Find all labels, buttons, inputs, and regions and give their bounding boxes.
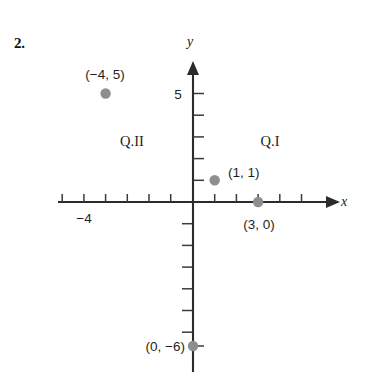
- worksheet-figure: 2. x −4: [0, 0, 377, 378]
- y-tick-label-5: 5: [174, 87, 182, 102]
- y-axis-arrow-icon: [187, 61, 199, 75]
- point-label-0-minus6: (0, −6): [146, 339, 185, 354]
- y-axis-label: y: [185, 34, 194, 49]
- data-point-minus4-5: [100, 88, 110, 98]
- data-point-0-minus6: [188, 341, 198, 351]
- x-axis-group: x −4: [58, 194, 348, 226]
- quadrant-1-label: Q.I: [261, 133, 280, 149]
- x-axis-arrow-icon: [326, 196, 340, 208]
- x-axis-label: x: [340, 194, 348, 209]
- data-point-3-0: [253, 197, 263, 207]
- y-axis-ticks-positive: [193, 94, 204, 181]
- data-point-1-1: [210, 175, 220, 185]
- plotted-points-group: [100, 88, 263, 351]
- quadrant-2-label: Q.II: [120, 133, 144, 149]
- point-labels-group: (−4, 5) (1, 1) (3, 0) (0, −6): [85, 67, 274, 354]
- point-label-minus4-5: (−4, 5): [85, 67, 124, 82]
- point-label-3-0: (3, 0): [243, 217, 275, 232]
- quadrant-annotations: Q.II Q.I: [120, 133, 280, 149]
- point-label-1-1: (1, 1): [228, 165, 260, 180]
- x-axis-ticks-negative: [62, 194, 171, 202]
- coordinate-plane: x −4: [0, 0, 377, 378]
- x-tick-label--4: −4: [76, 211, 92, 226]
